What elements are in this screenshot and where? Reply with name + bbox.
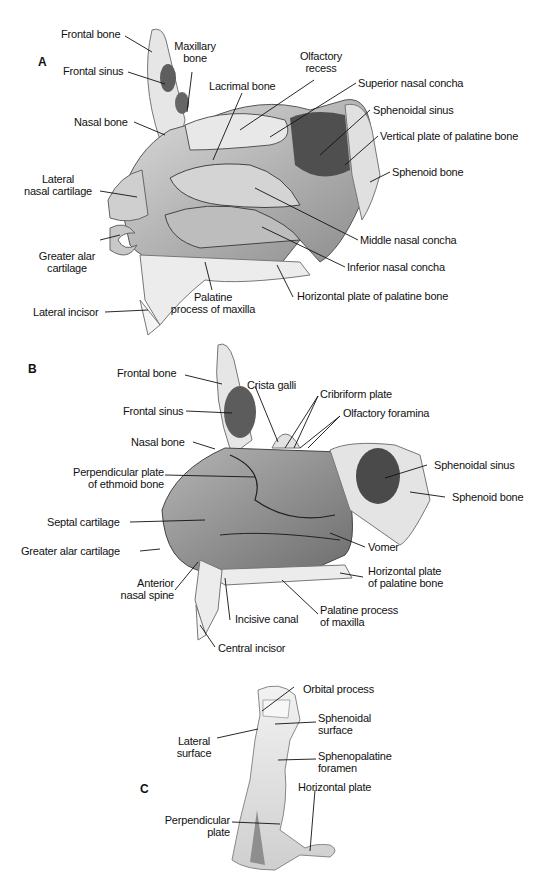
label-lacrimal-bone: Lacrimal bone: [209, 80, 276, 92]
label-line-1: Olfactory: [288, 50, 354, 62]
label-crista-galli: Crista galli: [247, 379, 296, 391]
label-superior-nasal-concha: Superior nasal concha: [358, 77, 463, 89]
panel-letter-b: B: [28, 362, 37, 376]
label-frontal-sinus-a: Frontal sinus: [63, 65, 123, 77]
label-vomer: Vomer: [368, 541, 399, 553]
label-line-2: of ethmoid bone: [64, 478, 164, 490]
label-central-incisor: Central incisor: [218, 642, 285, 654]
label-cribriform-plate: Cribriform plate: [320, 388, 392, 400]
label-palatine-process-a: Palatine process of maxilla: [165, 291, 261, 315]
label-line-1: Horizontal plate: [368, 565, 443, 577]
label-line-1: Maxillary: [167, 40, 223, 52]
label-line-2: cartilage: [34, 262, 100, 274]
label-line-1: Palatine process: [320, 604, 398, 616]
label-olfactory-foramina: Olfactory foramina: [343, 407, 429, 419]
label-sphenopalatine-foramen: Sphenopalatine foramen: [318, 750, 392, 774]
label-maxillary-bone: Maxillary bone: [167, 40, 223, 64]
label-olfactory-recess: Olfactory recess: [288, 50, 354, 74]
panel-letter-c: C: [140, 782, 149, 796]
label-greater-alar-cartilage-a: Greater alar cartilage: [34, 250, 100, 274]
label-line-1: Greater alar: [34, 250, 100, 262]
label-line-2: foramen: [318, 762, 392, 774]
label-line-1: Anterior: [112, 577, 174, 589]
label-greater-alar-cartilage-b: Greater alar cartilage: [21, 545, 120, 557]
label-perpendicular-plate-ethmoid: Perpendicular plate of ethmoid bone: [64, 466, 164, 490]
label-perpendicular-plate-c: Perpendicular plate: [158, 814, 230, 838]
label-septal-cartilage: Septal cartilage: [47, 516, 120, 528]
label-nasal-bone-b: Nasal bone: [131, 436, 185, 448]
label-line-1: Lateral: [172, 735, 216, 747]
label-line-2: recess: [288, 62, 354, 74]
label-lateral-surface: Lateral surface: [172, 735, 216, 759]
label-line-2: nasal cartilage: [18, 185, 98, 197]
label-sphenoidal-sinus-b: Sphenoidal sinus: [434, 459, 515, 471]
label-line-1: Sphenopalatine: [318, 750, 392, 762]
label-line-2: bone: [167, 52, 223, 64]
label-line-2: process of maxilla: [165, 303, 261, 315]
panel-letter-a: A: [38, 55, 47, 69]
label-line-1: Sphenoidal: [318, 712, 371, 724]
label-line-2: plate: [158, 826, 230, 838]
label-frontal-bone-b: Frontal bone: [117, 367, 176, 379]
label-horizontal-plate-palatine-a: Horizontal plate of palatine bone: [297, 290, 448, 302]
label-lateral-incisor: Lateral incisor: [33, 306, 98, 318]
label-horizontal-plate-c: Horizontal plate: [298, 781, 371, 793]
label-line-2: surface: [318, 724, 371, 736]
label-line-2: surface: [172, 747, 216, 759]
label-incisive-canal: Incisive canal: [235, 613, 298, 625]
label-lateral-nasal-cartilage: Lateral nasal cartilage: [18, 173, 98, 197]
nasal-cavity-anatomy-figure: A Frontal bone Maxillary bone Frontal si…: [0, 0, 544, 894]
label-line-1: Palatine: [165, 291, 261, 303]
label-middle-nasal-concha: Middle nasal concha: [360, 234, 456, 246]
label-horizontal-plate-palatine-b: Horizontal plate of palatine bone: [368, 565, 443, 589]
label-sphenoidal-surface: Sphenoidal surface: [318, 712, 371, 736]
label-line-2: nasal spine: [112, 589, 174, 601]
label-inferior-nasal-concha: Inferior nasal concha: [347, 261, 445, 273]
label-palatine-process-b: Palatine process of maxilla: [320, 604, 398, 628]
label-anterior-nasal-spine: Anterior nasal spine: [112, 577, 174, 601]
label-line-1: Perpendicular plate: [64, 466, 164, 478]
label-line-1: Lateral: [18, 173, 98, 185]
label-orbital-process: Orbital process: [303, 683, 374, 695]
label-sphenoid-bone-b: Sphenoid bone: [452, 491, 523, 503]
label-nasal-bone-a: Nasal bone: [74, 116, 128, 128]
label-sphenoid-bone-a: Sphenoid bone: [392, 166, 463, 178]
label-line-1: Perpendicular: [158, 814, 230, 826]
label-frontal-bone-a: Frontal bone: [61, 28, 120, 40]
label-line-2: of maxilla: [320, 616, 398, 628]
label-line-2: of palatine bone: [368, 577, 443, 589]
label-vertical-plate-palatine: Vertical plate of palatine bone: [380, 130, 518, 142]
label-sphenoidal-sinus-a: Sphenoidal sinus: [373, 104, 454, 116]
label-frontal-sinus-b: Frontal sinus: [123, 405, 183, 417]
